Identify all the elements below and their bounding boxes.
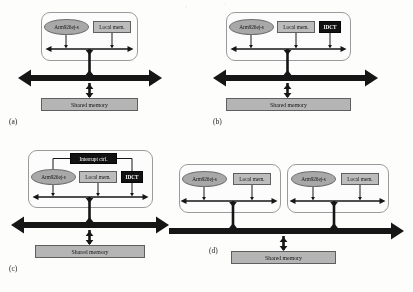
shared-memory-block-d: Shared memory: [231, 251, 336, 264]
panel-a: Arm926ej-s Local mem. Shared: [0, 0, 207, 146]
bus-wires-d: [207, 146, 413, 292]
panel-b: Arm926ej-s Local mem. IDCT Shared memory: [207, 0, 413, 146]
panel-caption-c: (c): [9, 264, 17, 273]
figure-multiprocessor-architectures: Arm926ej-s Local mem. Shared: [0, 0, 413, 292]
panel-caption-a: (a): [9, 117, 17, 126]
shared-memory-block-c: Shared memory: [35, 245, 145, 258]
bus-wires-c: [0, 146, 207, 292]
panel-caption-b: (b): [213, 117, 222, 126]
shared-memory-block-b: Shared memory: [226, 98, 351, 111]
panel-c: Interrupt ctrl. Arm926ej-s Local mem. ID…: [0, 146, 207, 292]
panel-d: Arm926ej-s Local mem. Arm926ej-s Local m…: [207, 146, 413, 292]
panel-caption-d: (d): [209, 246, 218, 255]
shared-memory-block-a: Shared memory: [41, 98, 138, 111]
bus-wires-a: [0, 0, 207, 146]
bus-wires-b: [207, 0, 413, 146]
